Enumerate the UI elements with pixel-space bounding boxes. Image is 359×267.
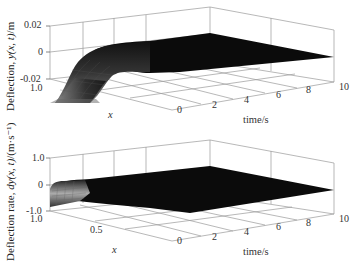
ttick-10: 10 (339, 213, 349, 224)
deflection-plot: Deflection, y(x, t)/m 0.02 0 -0.02 1.0 x… (0, 0, 359, 133)
ttick-10: 10 (339, 81, 349, 92)
ttick-2: 2 (212, 99, 217, 110)
xaxis-label: x (108, 109, 113, 120)
zaxis-label-deflection-rate: Deflection rate, dy(x, t)/(m·s⁻¹) (4, 123, 17, 261)
ttick-4: 4 (244, 226, 249, 237)
xaxis-label: x (112, 244, 117, 255)
zaxis-label-deflection: Deflection, y(x, t)/m (4, 22, 16, 111)
ttick-8: 8 (306, 217, 311, 228)
deflection-rate-plot: Deflection rate, dy(x, t)/(m·s⁻¹) 1.0 0 … (0, 133, 359, 267)
ttick-6: 6 (276, 89, 281, 100)
xtick-1.0: 1.0 (30, 213, 43, 224)
ttick-6: 6 (276, 221, 281, 232)
xtick-1.0: 1.0 (30, 82, 43, 93)
ztick-0.02: 0.02 (24, 19, 42, 30)
ttick-8: 8 (306, 84, 311, 95)
taxis-label: time/s (243, 246, 269, 257)
ttick-4: 4 (244, 94, 249, 105)
ztick-0: 0 (38, 179, 43, 190)
ttick-0: 0 (177, 235, 182, 246)
ztick-0: 0 (38, 46, 43, 57)
ttick-2: 2 (212, 231, 217, 242)
ttick-0: 0 (177, 104, 182, 115)
deflection-rate-surface-svg (0, 133, 359, 267)
xtick-0.5: 0.5 (90, 224, 103, 235)
taxis-label: time/s (243, 114, 269, 125)
ztick-1.0: 1.0 (32, 152, 45, 163)
